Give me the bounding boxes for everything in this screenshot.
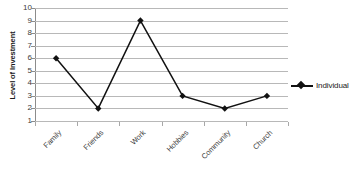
data-point-marker: [137, 17, 143, 23]
data-point-marker: [264, 93, 270, 99]
data-point-marker: [222, 105, 228, 111]
series-line: [56, 21, 267, 109]
diamond-marker-icon: [297, 80, 305, 88]
data-point-marker: [179, 93, 185, 99]
line-chart: Level of Investment 10987654321 FamilyFr…: [0, 0, 353, 175]
legend-marker-individual: [291, 81, 313, 90]
chart-legend: Individual: [291, 81, 349, 90]
legend-label-individual: Individual: [316, 81, 349, 90]
